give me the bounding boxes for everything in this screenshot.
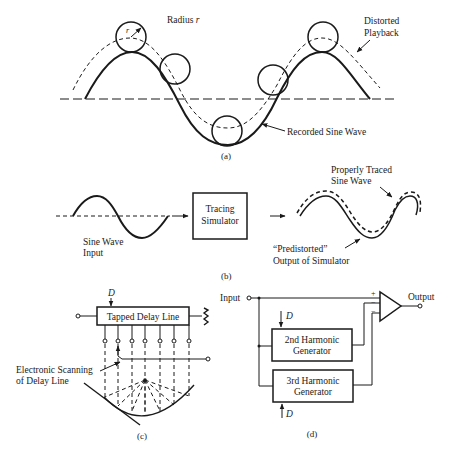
caption-c: (c) [137,431,147,441]
gen3-label-1: 3rd Harmonic [286,376,339,386]
scanning-pointer-arrow-icon [100,362,120,371]
scanning-label-1: Electronic Scanning [16,365,93,375]
distorted-pointer-arrow-icon [357,40,370,52]
output-label-d: Output [408,292,435,302]
predistorted-curve [297,191,421,232]
traced-label-2: Sine Wave [331,176,371,186]
stylus-circle [308,22,338,52]
gen2-label-2: Generator [293,346,332,356]
radius-arrow-icon [131,28,141,37]
input-sine-wave [73,196,168,238]
gen3-label-2: Generator [294,387,333,397]
delay-line-label: Tapped Delay Line [107,312,180,322]
gen3-output-wire [353,313,380,385]
traced-label-1: Properly Traced [331,165,392,175]
predistorted-label-1: “Predistorted” [273,244,327,254]
figure-b: Tracing Simulator Properly Traced Sine W… [56,165,421,281]
distorted-playback-curve [73,38,380,128]
input-terminal-d [247,296,251,300]
delay-taps [103,325,191,343]
input-label-d: Input [220,293,240,303]
wiper-wire [118,356,206,359]
stylus-circle [258,65,288,95]
gen2-label-1: 2nd Harmonic [285,335,340,345]
output-sine-wave [300,196,418,238]
figure-c: D Tapped Delay Line [16,288,210,441]
figure-a: r Radius r Distorted Playback Recorded S… [60,15,400,161]
d-label-c: D [107,288,115,298]
gen2-box [272,329,352,361]
summing-amplifier-icon [380,292,401,321]
plus-sign: + [371,289,376,298]
caption-a: (a) [221,151,231,161]
scanning-label-2: of Delay Line [16,376,69,386]
gen2-output-wire [352,303,380,345]
predistorted-pointer-arrow-icon [345,239,360,248]
input-label-1: Sine Wave [83,237,123,247]
output-terminal-d [418,304,422,308]
caption-b: (b) [221,271,232,281]
radius-label-text: Radius [167,15,194,25]
radius-label: Radius r [167,15,200,25]
caption-d: (d) [307,429,318,439]
stylus-circle [212,116,242,146]
diagram-canvas: r Radius r Distorted Playback Recorded S… [0,0,454,460]
radius-symbol: r [196,15,200,25]
simulator-label-2: Simulator [201,216,239,226]
distorted-label-1: Distorted [364,16,400,26]
distorted-label-2: Playback [364,28,399,38]
stylus-circle [160,54,190,84]
predistorted-label-2: Output of Simulator [273,256,350,266]
recorded-label: Recorded Sine Wave [287,127,366,137]
input-terminal [76,314,80,318]
d-bottom-label: D [285,409,293,419]
input-label-2: Input [83,248,103,258]
gen3-box [273,370,353,402]
r-marker: r [126,26,130,35]
resistor-termination-icon [204,308,208,325]
traced-pointer-arrow-icon [380,187,392,197]
simulator-label-1: Tracing [205,204,234,214]
output-terminal [206,357,210,361]
recorded-pointer-arrow-icon [262,124,285,131]
d-top-label: D [285,311,293,321]
figure-d: Input + − − Output D 2nd Harmonic Genera… [220,289,435,439]
